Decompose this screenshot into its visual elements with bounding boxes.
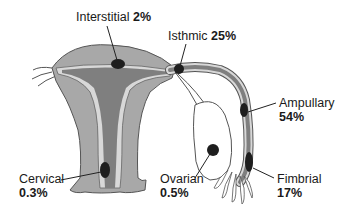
implant-fimbrial — [245, 152, 253, 172]
label-interstitial: Interstitial 2% — [76, 10, 151, 24]
label-ampullary: Ampullary 54% — [279, 96, 335, 124]
implant-interstitial — [111, 59, 125, 69]
implant-isthmic — [174, 64, 184, 74]
label-cervical: Cervical 0.3% — [19, 172, 64, 200]
label-ovarian: Ovarian 0.5% — [160, 172, 204, 200]
ovary — [194, 102, 232, 180]
label-isthmic: Isthmic 25% — [168, 29, 236, 43]
implant-ampullary — [240, 103, 248, 117]
label-fimbrial: Fimbrial 17% — [277, 172, 321, 200]
implant-ovarian — [207, 144, 219, 156]
implant-cervical — [100, 162, 110, 178]
